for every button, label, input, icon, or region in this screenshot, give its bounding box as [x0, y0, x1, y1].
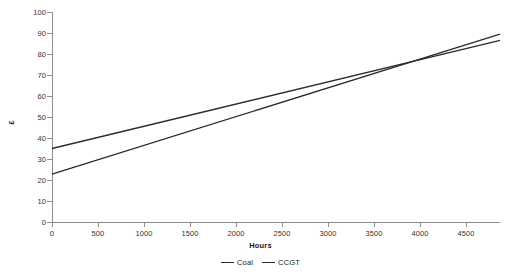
x-tick-label: 1500 [170, 229, 210, 238]
legend-item-ccgt[interactable]: CCGT [262, 258, 300, 267]
x-axis-title: Hours [0, 241, 521, 250]
x-tick-label: 1000 [124, 229, 164, 238]
y-tick-mark [47, 180, 52, 181]
x-tick-label: 500 [78, 229, 118, 238]
y-tick-mark [47, 201, 52, 202]
y-tick-label: 20 [2, 176, 46, 185]
chart-legend: CoalCCGT [0, 258, 521, 267]
y-tick-mark [47, 12, 52, 13]
x-tick-mark [420, 223, 421, 227]
x-tick-mark [328, 223, 329, 227]
y-tick-mark [47, 54, 52, 55]
y-tick-label: 0 [2, 218, 46, 227]
legend-label: Coal [237, 258, 253, 267]
series-line-coal [52, 40, 500, 148]
x-tick-label: 4000 [400, 229, 440, 238]
x-tick-mark [466, 223, 467, 227]
x-axis-line [52, 222, 500, 223]
y-tick-mark [47, 117, 52, 118]
y-tick-mark [47, 33, 52, 34]
x-tick-label: 2000 [216, 229, 256, 238]
y-tick-label: 30 [2, 155, 46, 164]
y-tick-mark [47, 159, 52, 160]
x-tick-mark [190, 223, 191, 227]
legend-item-coal[interactable]: Coal [221, 258, 253, 267]
legend-line-icon [221, 262, 234, 263]
x-tick-mark [236, 223, 237, 227]
x-tick-label: 4500 [446, 229, 486, 238]
x-tick-label: 0 [32, 229, 72, 238]
line-chart: 0102030405060708090100 05001000150020002… [0, 0, 521, 277]
y-tick-label: 80 [2, 50, 46, 59]
x-tick-mark [374, 223, 375, 227]
x-tick-mark [144, 223, 145, 227]
series-line-ccgt [52, 34, 500, 174]
y-axis-title: £ [7, 120, 16, 124]
x-tick-mark [282, 223, 283, 227]
x-tick-mark [52, 223, 53, 227]
y-tick-mark [47, 138, 52, 139]
x-tick-label: 2500 [262, 229, 302, 238]
x-tick-label: 3000 [308, 229, 348, 238]
legend-line-icon [262, 262, 275, 263]
y-tick-label: 40 [2, 134, 46, 143]
legend-label: CCGT [278, 258, 300, 267]
x-tick-mark [98, 223, 99, 227]
x-tick-label: 3500 [354, 229, 394, 238]
y-tick-label: 70 [2, 71, 46, 80]
y-tick-label: 100 [2, 8, 46, 17]
y-tick-label: 90 [2, 29, 46, 38]
y-tick-mark [47, 96, 52, 97]
y-tick-mark [47, 75, 52, 76]
y-tick-label: 10 [2, 197, 46, 206]
y-axis-line [52, 12, 53, 223]
y-tick-label: 60 [2, 92, 46, 101]
